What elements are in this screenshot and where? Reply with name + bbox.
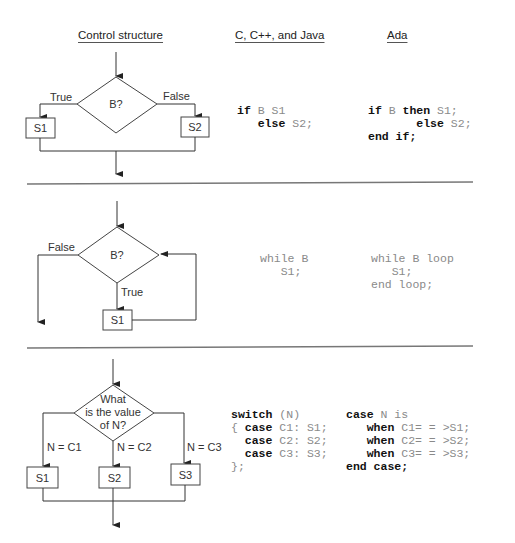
- false-exit-arrow-icon: [38, 255, 78, 322]
- s1-label: S1: [34, 122, 47, 134]
- code-text: C1: S1;: [272, 421, 327, 434]
- s2-label: S2: [188, 121, 201, 133]
- keyword: else: [258, 117, 286, 130]
- code-text: C3= = >S3;: [394, 447, 470, 460]
- keyword: case: [245, 421, 273, 434]
- while-loop-flowchart: B? False True S1: [38, 201, 196, 330]
- header-control-structure: Control structure: [78, 29, 163, 41]
- indent: [368, 117, 416, 130]
- keyword: end case;: [346, 460, 408, 473]
- code-text: S1;: [430, 104, 458, 117]
- keyword: when: [367, 421, 395, 434]
- code-text: C3: S3;: [272, 447, 327, 460]
- code-text: B S1: [251, 104, 286, 117]
- s1-label: S1: [36, 472, 49, 484]
- code-text: while B: [260, 252, 308, 265]
- code-text: S1;: [371, 265, 412, 278]
- indent: [231, 447, 245, 460]
- ada-if-code: if B then S1; else S2; end if;: [368, 104, 472, 143]
- keyword: then: [403, 104, 431, 117]
- condition-line-2: is the value: [85, 406, 141, 418]
- indent: [346, 447, 367, 460]
- indent: [346, 421, 367, 434]
- true-label: True: [121, 286, 143, 298]
- code-text: while B loop: [371, 252, 454, 265]
- false-label: False: [163, 90, 190, 102]
- code-text: C2= = >S2;: [394, 434, 470, 447]
- if-then-else-flowchart: B? True False S1 S2: [26, 52, 209, 174]
- keyword: switch: [231, 408, 272, 421]
- s2-label: S2: [108, 472, 121, 484]
- code-text: (N): [272, 408, 300, 421]
- header-c-cpp-java: C, C++, and Java: [235, 29, 325, 41]
- code-text: S2;: [285, 117, 313, 130]
- keyword: case: [245, 434, 273, 447]
- keyword: end if;: [368, 130, 416, 143]
- c-switch-code: switch (N) { case C1: S1; case C2: S2; c…: [231, 408, 328, 473]
- keyword: when: [367, 447, 395, 460]
- ada-while-code: while B loop S1; end loop;: [371, 252, 454, 291]
- code-text: };: [231, 460, 245, 473]
- branch-3-label: N = C3: [187, 441, 222, 453]
- indent: [237, 117, 258, 130]
- keyword: if: [237, 104, 251, 117]
- branch-2-label: N = C2: [117, 441, 152, 453]
- code-text: N is: [374, 408, 409, 421]
- keyword: else: [416, 117, 444, 130]
- keyword: case: [346, 408, 374, 421]
- keyword: case: [245, 447, 273, 460]
- join-line: [40, 137, 195, 151]
- section-divider: [27, 346, 473, 348]
- code-text: C1= = >S1;: [394, 421, 470, 434]
- s3-label: S3: [179, 469, 192, 481]
- code-text: B: [382, 104, 403, 117]
- s1-label: S1: [111, 314, 124, 326]
- keyword: if: [368, 104, 382, 117]
- condition-label: B?: [110, 249, 123, 261]
- keyword: when: [367, 434, 395, 447]
- branch-1-arrow-icon: [43, 413, 74, 466]
- condition-line-3: of N?: [100, 419, 126, 431]
- header-ada: Ada: [387, 29, 407, 41]
- code-text: C2: S2;: [272, 434, 327, 447]
- condition-label: B?: [109, 98, 122, 110]
- condition-line-1: What: [100, 393, 126, 405]
- c-if-code: if B S1 else S2;: [237, 104, 313, 130]
- code-text: {: [231, 421, 245, 434]
- true-label: True: [50, 91, 72, 103]
- indent: [346, 434, 367, 447]
- false-branch-arrow-icon: [157, 104, 195, 116]
- ada-case-code: case N is when C1= = >S1; when C2= = >S2…: [346, 408, 470, 473]
- loop-back-arrow-icon: [160, 251, 168, 257]
- case-switch-flowchart: What is the value of N? N = C1 N = C2 N …: [27, 359, 222, 525]
- code-text: end loop;: [371, 278, 433, 291]
- indent: [231, 434, 245, 447]
- code-text: S2;: [444, 117, 472, 130]
- code-text: S1;: [260, 265, 301, 278]
- false-label: False: [48, 241, 75, 253]
- branch-3-arrow-icon: [154, 413, 184, 463]
- section-divider: [27, 182, 473, 184]
- branch-1-label: N = C1: [47, 441, 82, 453]
- true-branch-arrow-icon: [40, 104, 77, 117]
- c-while-code: while B S1;: [260, 252, 308, 278]
